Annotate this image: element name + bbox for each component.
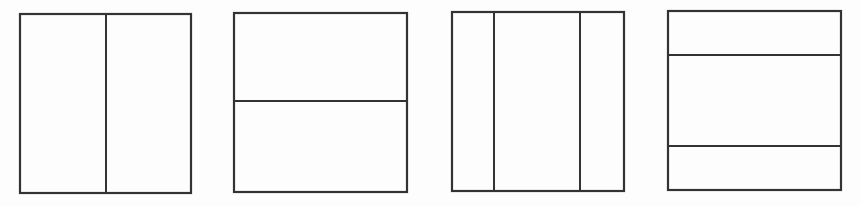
panel-3: [452, 12, 624, 191]
panel-2: [234, 13, 407, 192]
panel-border: [452, 12, 624, 191]
divided-rectangles-diagram: [0, 0, 861, 206]
panel-4: [668, 11, 841, 190]
panel-border: [234, 13, 407, 192]
panel-border: [668, 11, 841, 190]
diagram-canvas: [0, 0, 861, 206]
panel-1: [20, 14, 191, 193]
